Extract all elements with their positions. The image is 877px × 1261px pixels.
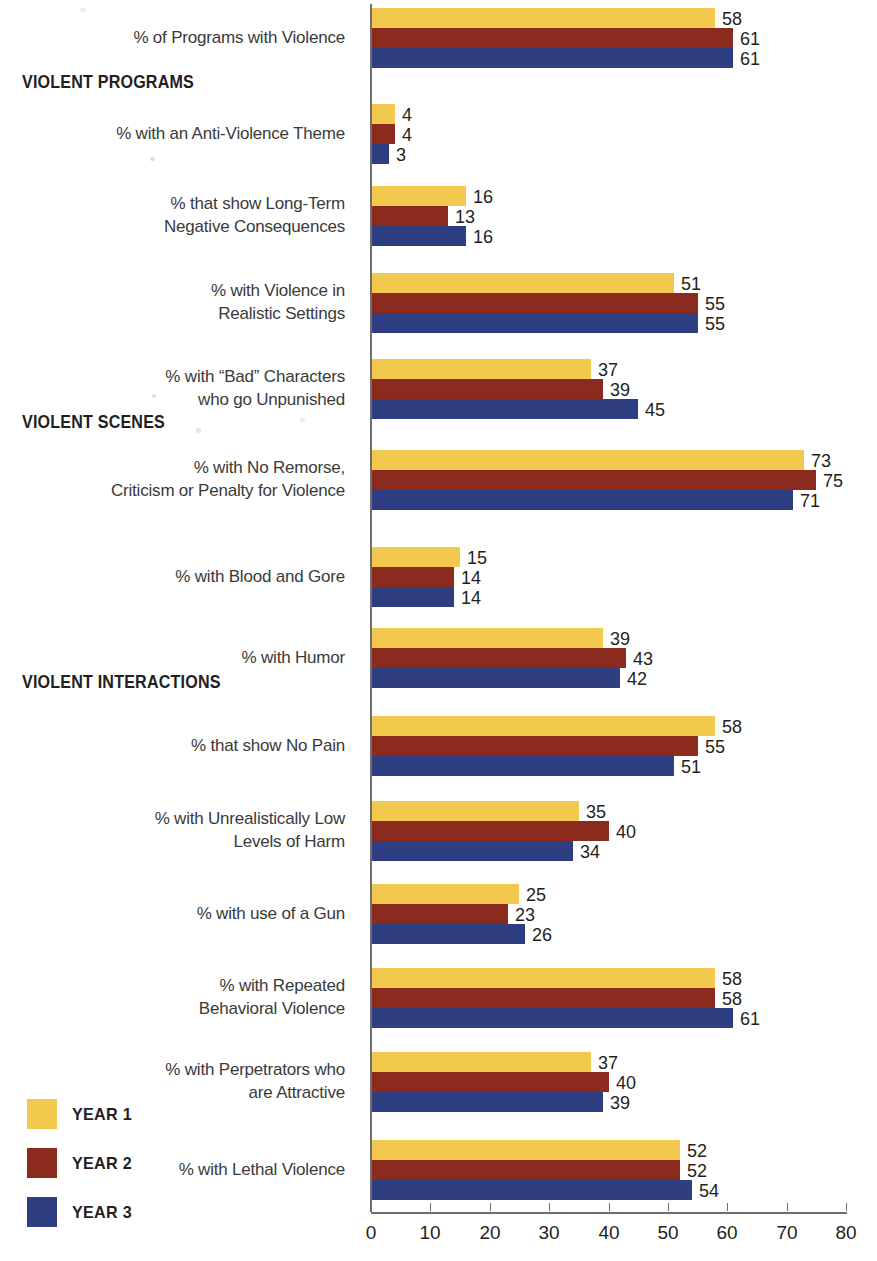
x-axis-tick-label-70: 70 — [767, 1222, 807, 1244]
category-label-4: % with Violence in Realistic Settings — [0, 279, 345, 325]
bar-9-year-1 — [371, 716, 715, 736]
bar-value-label: 14 — [461, 588, 481, 608]
bar-1-year-3 — [371, 48, 733, 68]
bar-8-year-3 — [371, 668, 620, 688]
bar-value-label: 42 — [627, 669, 647, 689]
bar-value-label: 45 — [645, 400, 665, 420]
category-label-3: % that show Long-Term Negative Consequen… — [0, 192, 345, 238]
bar-value-label: 58 — [722, 9, 742, 29]
bar-4-year-3 — [371, 313, 698, 333]
bar-value-label: 37 — [598, 360, 618, 380]
bar-value-label: 15 — [467, 548, 487, 568]
violence-bar-chart: 586161% of Programs with Violence443% wi… — [0, 0, 877, 1261]
bar-10-year-3 — [371, 841, 573, 861]
bar-2-year-3 — [371, 144, 389, 164]
bar-value-label: 55 — [705, 294, 725, 314]
scan-artifact-4 — [80, 8, 86, 12]
x-axis-tick-label-40: 40 — [589, 1222, 629, 1244]
x-axis-line — [371, 1212, 847, 1214]
bar-10-year-1 — [371, 801, 579, 821]
bar-value-label: 58 — [722, 989, 742, 1009]
bar-1-year-2 — [371, 28, 733, 48]
bar-4-year-1 — [371, 273, 674, 293]
bar-value-label: 61 — [740, 29, 760, 49]
category-label-13: % with Perpetrators who are Attractive — [0, 1058, 345, 1104]
x-axis-tick-10 — [430, 1203, 431, 1211]
bar-value-label: 71 — [800, 491, 820, 511]
bar-7-year-1 — [371, 547, 460, 567]
x-axis-tick-label-20: 20 — [470, 1222, 510, 1244]
category-label-6: % with No Remorse, Criticism or Penalty … — [0, 456, 345, 502]
bar-6-year-1 — [371, 450, 804, 470]
bar-value-label: 35 — [586, 802, 606, 822]
legend-label-year-3: YEAR 3 — [72, 1203, 132, 1223]
x-axis-tick-label-10: 10 — [410, 1222, 450, 1244]
bar-2-year-2 — [371, 124, 395, 144]
bar-value-label: 54 — [699, 1181, 719, 1201]
x-axis-tick-label-80: 80 — [826, 1222, 866, 1244]
bar-7-year-2 — [371, 567, 454, 587]
bar-value-label: 61 — [740, 1009, 760, 1029]
legend-swatch-year-2 — [27, 1148, 57, 1178]
category-label-8: % with Humor — [0, 646, 345, 669]
legend-swatch-year-3 — [27, 1197, 57, 1227]
bar-value-label: 39 — [610, 1093, 630, 1113]
bar-9-year-3 — [371, 756, 674, 776]
category-label-9: % that show No Pain — [0, 734, 345, 757]
bar-value-label: 43 — [633, 649, 653, 669]
bar-13-year-2 — [371, 1072, 609, 1092]
x-axis-tick-label-30: 30 — [529, 1222, 569, 1244]
scan-artifact-3 — [196, 428, 201, 433]
bar-6-year-3 — [371, 490, 793, 510]
x-axis-tick-label-0: 0 — [351, 1222, 391, 1244]
bar-10-year-2 — [371, 821, 609, 841]
bar-2-year-1 — [371, 104, 395, 124]
x-axis-tick-label-60: 60 — [707, 1222, 747, 1244]
x-axis-tick-30 — [549, 1203, 550, 1211]
bar-11-year-3 — [371, 924, 525, 944]
bar-value-label: 75 — [823, 471, 843, 491]
bar-value-label: 58 — [722, 717, 742, 737]
bar-value-label: 40 — [616, 1073, 636, 1093]
category-label-11: % with use of a Gun — [0, 902, 345, 925]
bar-value-label: 16 — [473, 187, 493, 207]
bar-14-year-1 — [371, 1140, 680, 1160]
bar-value-label: 58 — [722, 969, 742, 989]
x-axis-tick-20 — [490, 1203, 491, 1211]
x-axis-tick-70 — [787, 1203, 788, 1211]
bar-value-label: 55 — [705, 314, 725, 334]
category-label-2: % with an Anti-Violence Theme — [0, 122, 345, 145]
bar-value-label: 26 — [532, 925, 552, 945]
x-axis-tick-label-50: 50 — [648, 1222, 688, 1244]
bar-5-year-2 — [371, 379, 603, 399]
bar-value-label: 4 — [402, 105, 412, 125]
bar-value-label: 4 — [402, 125, 412, 145]
bar-13-year-1 — [371, 1052, 591, 1072]
bar-value-label: 3 — [396, 145, 406, 165]
bar-value-label: 39 — [610, 380, 630, 400]
bar-value-label: 40 — [616, 822, 636, 842]
bar-value-label: 61 — [740, 49, 760, 69]
bar-14-year-3 — [371, 1180, 692, 1200]
bar-13-year-3 — [371, 1092, 603, 1112]
bar-7-year-3 — [371, 587, 454, 607]
bar-value-label: 55 — [705, 737, 725, 757]
bar-14-year-2 — [371, 1160, 680, 1180]
bar-8-year-2 — [371, 648, 626, 668]
bar-value-label: 39 — [610, 629, 630, 649]
bar-value-label: 16 — [473, 227, 493, 247]
x-axis-tick-40 — [609, 1203, 610, 1211]
category-label-1: % of Programs with Violence — [0, 26, 345, 49]
category-label-10: % with Unrealistically Low Levels of Har… — [0, 807, 345, 853]
bar-1-year-1 — [371, 8, 715, 28]
bar-5-year-3 — [371, 399, 638, 419]
bar-value-label: 51 — [681, 274, 701, 294]
bar-4-year-2 — [371, 293, 698, 313]
bar-12-year-1 — [371, 968, 715, 988]
bar-value-label: 25 — [526, 885, 546, 905]
scan-artifact-1 — [150, 157, 155, 161]
bar-6-year-2 — [371, 470, 816, 490]
section-header-3: VIOLENT INTERACTIONS — [22, 672, 221, 693]
bar-9-year-2 — [371, 736, 698, 756]
category-label-7: % with Blood and Gore — [0, 565, 345, 588]
